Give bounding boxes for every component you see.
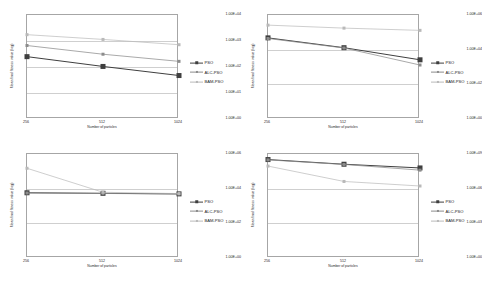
legend-label-alc-pso: ALC-PSO [446, 209, 464, 214]
data-point-bam [102, 191, 105, 194]
legend-item-alc-pso[interactable]: ALC-PSO [190, 70, 223, 75]
y-axis-tick-label: 1.00E+04 [458, 47, 482, 51]
chart-panel-top-right: Mean final fitness value (log) Number of… [241, 0, 482, 143]
data-point-bam [343, 180, 346, 183]
data-point-alc [343, 163, 346, 166]
data-point-bam [178, 192, 181, 195]
legend-marker-alc-pso-icon [431, 209, 444, 214]
series-line-bam [268, 166, 420, 186]
data-point-alc [26, 192, 29, 195]
legend-item-pso[interactable]: PSO [431, 199, 464, 204]
legend-label-alc-pso: ALC-PSO [205, 209, 223, 214]
series-line-bam [27, 168, 179, 193]
legend-label-pso: PSO [205, 60, 214, 65]
data-point-alc [419, 64, 422, 67]
x-axis-tick-label: 1024 [174, 120, 182, 124]
y-axis-tick-label: 1.00E+02 [217, 64, 241, 68]
x-axis-tick-label: 256 [264, 120, 270, 124]
data-point-alc [178, 60, 181, 63]
plot-area [267, 14, 419, 118]
data-point-pso [177, 73, 182, 78]
x-axis-title: Number of particles [267, 125, 419, 129]
data-point-alc [26, 44, 29, 47]
x-axis-tick-label: 512 [340, 259, 346, 263]
y-axis-tick-label: 1.00E+00 [458, 116, 482, 120]
y-axis-title: Mean final fitness value (log) [251, 183, 255, 228]
y-axis-tick-label: 1.00E+02 [217, 220, 241, 224]
data-point-pso [101, 64, 106, 69]
legend-label-alc-pso: ALC-PSO [446, 70, 464, 75]
data-point-alc [102, 53, 105, 56]
legend-marker-pso-icon [431, 199, 444, 204]
legend-label-bam-pso: BAM-PSO [205, 79, 224, 84]
legend-marker-bam-pso-icon [431, 79, 444, 84]
y-axis-tick-label: 1.00E+02 [458, 81, 482, 85]
data-point-bam [26, 33, 29, 36]
legend-item-bam-pso[interactable]: BAM-PSO [190, 79, 223, 84]
legend-label-pso: PSO [446, 199, 455, 204]
y-axis-tick-label: 1.00E+00 [458, 255, 482, 259]
plot-area [26, 14, 178, 118]
legend-item-pso[interactable]: PSO [431, 60, 464, 65]
y-axis-tick-label: 1.00E+06 [458, 186, 482, 190]
data-point-alc [419, 169, 422, 172]
x-axis-tick-label: 1024 [415, 120, 423, 124]
x-axis-tick-label: 1024 [415, 259, 423, 263]
y-axis-tick-label: 1.00E+09 [458, 151, 482, 155]
chart-panel-bottom-right: Mean final fitness value (log) Number of… [241, 143, 482, 285]
data-point-bam [178, 43, 181, 46]
data-point-bam [102, 38, 105, 41]
y-axis-tick-label: 1.00E+00 [217, 116, 241, 120]
x-axis-tick-label: 512 [340, 120, 346, 124]
legend-marker-bam-pso-icon [190, 218, 203, 223]
legend-marker-pso-icon [431, 60, 444, 65]
legend-item-alc-pso[interactable]: ALC-PSO [431, 70, 464, 75]
x-axis-tick-label: 256 [264, 259, 270, 263]
legend-label-pso: PSO [446, 60, 455, 65]
y-axis-title: Mean final fitness value (log) [251, 44, 255, 89]
x-axis-title: Number of particles [267, 264, 419, 268]
series-layer [27, 15, 179, 119]
data-point-pso [418, 57, 423, 62]
y-axis-tick-label: 1.00E+06 [217, 151, 241, 155]
legend-marker-alc-pso-icon [190, 70, 203, 75]
x-axis-tick-label: 1024 [174, 259, 182, 263]
data-point-bam [26, 167, 29, 170]
y-axis-tick-label: 1.00E+01 [217, 90, 241, 94]
y-axis-title: Mean final fitness value (log) [10, 44, 14, 89]
plot-area [267, 153, 419, 257]
legend-marker-bam-pso-icon [190, 79, 203, 84]
series-layer [268, 154, 420, 258]
y-axis-tick-label: 1.00E+06 [458, 12, 482, 16]
y-axis-tick-label: 1.00E+04 [217, 186, 241, 190]
data-point-bam [267, 24, 270, 27]
data-point-bam [419, 185, 422, 188]
data-point-alc [267, 37, 270, 40]
legend-item-alc-pso[interactable]: ALC-PSO [190, 209, 223, 214]
series-layer [268, 15, 420, 119]
series-layer [27, 154, 179, 258]
data-point-bam [419, 29, 422, 32]
legend-marker-bam-pso-icon [431, 218, 444, 223]
figure-grid: Mean final fitness value (log) Number of… [0, 0, 482, 285]
chart-panel-bottom-left: Mean final fitness value (log) Number of… [0, 143, 241, 285]
x-axis-tick-label: 512 [99, 120, 105, 124]
x-axis-tick-label: 256 [23, 120, 29, 124]
legend-marker-pso-icon [190, 199, 203, 204]
legend-item-pso[interactable]: PSO [190, 199, 223, 204]
data-point-alc [343, 46, 346, 49]
x-axis-title: Number of particles [26, 264, 178, 268]
legend-label-alc-pso: ALC-PSO [205, 70, 223, 75]
y-axis-tick-label: 1.00E+03 [217, 38, 241, 42]
y-axis-tick-label: 1.00E+04 [217, 12, 241, 16]
data-point-bam [267, 165, 270, 168]
y-axis-title: Mean final fitness value (log) [10, 183, 14, 228]
x-axis-tick-label: 256 [23, 259, 29, 263]
legend-item-alc-pso[interactable]: ALC-PSO [431, 209, 464, 214]
x-axis-title: Number of particles [26, 125, 178, 129]
x-axis-tick-label: 512 [99, 259, 105, 263]
data-point-alc [267, 158, 270, 161]
legend-marker-alc-pso-icon [431, 70, 444, 75]
legend-marker-pso-icon [190, 60, 203, 65]
data-point-pso [25, 54, 30, 59]
